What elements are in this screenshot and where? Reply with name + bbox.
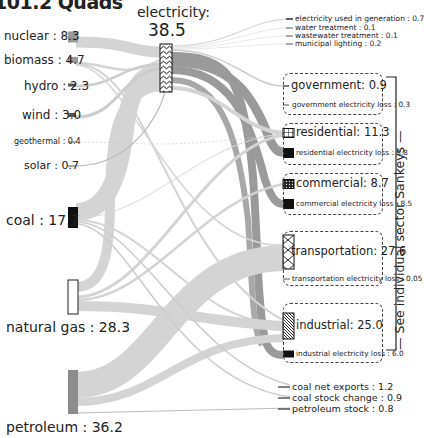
sector-loss-label-government: government electricity loss : 0.3 — [292, 101, 410, 108]
sector-loss-label-industrial: industrial electricity loss : 6.0 — [296, 350, 404, 357]
small-output-label: municipal lighting : 0.2 — [295, 40, 381, 48]
source-node-natural_gas — [68, 280, 78, 314]
electricity-node-bar — [160, 44, 172, 92]
sector-label-government: government: 0.9 — [291, 80, 387, 92]
source-node-petroleum — [68, 370, 78, 414]
side-note-text: See individual sector Sankeys — [392, 147, 407, 334]
electricity-node — [160, 44, 172, 92]
source-label-solar: solar : 0.7 — [24, 160, 79, 171]
bottom-output-label: petroleum stock : 0.8 — [292, 404, 393, 414]
source-label-nuclear: nuclear : 8.3 — [4, 30, 80, 42]
source-label-petroleum: petroleum : 36.2 — [6, 420, 123, 434]
total-title: 101.2 Quads — [0, 0, 123, 13]
sector-label-residential: residential: 11.3 — [296, 127, 389, 139]
source-label-natural_gas: natural gas : 28.3 — [6, 320, 130, 334]
bottom-output-label: coal stock change : 0.9 — [292, 393, 402, 403]
sector-label-industrial: industrial: 25.0 — [296, 320, 383, 332]
source-label-hydro: hydro : 2.3 — [24, 80, 89, 92]
bottom-output-label: coal net exports : 1.2 — [292, 382, 393, 392]
small-output-label: electricity used in generation : 0.7 — [295, 15, 424, 23]
side-note: — See individual sector Sankeys — — [392, 130, 407, 350]
electricity-value: 38.5 — [148, 22, 186, 39]
source-label-biomass: biomass : 4.7 — [4, 54, 85, 66]
electricity-label: electricity: — [137, 5, 210, 19]
flow-links — [76, 19, 290, 413]
sector-label-transportation: transportation: 27.6 — [291, 246, 406, 258]
source-label-geothermal: geothermal : 0.4 — [14, 138, 81, 146]
sector-label-commercial: commercial: 8.7 — [296, 178, 389, 190]
source-label-coal: coal : 17.7 — [6, 213, 80, 227]
source-label-wind: wind : 3.0 — [22, 109, 81, 121]
